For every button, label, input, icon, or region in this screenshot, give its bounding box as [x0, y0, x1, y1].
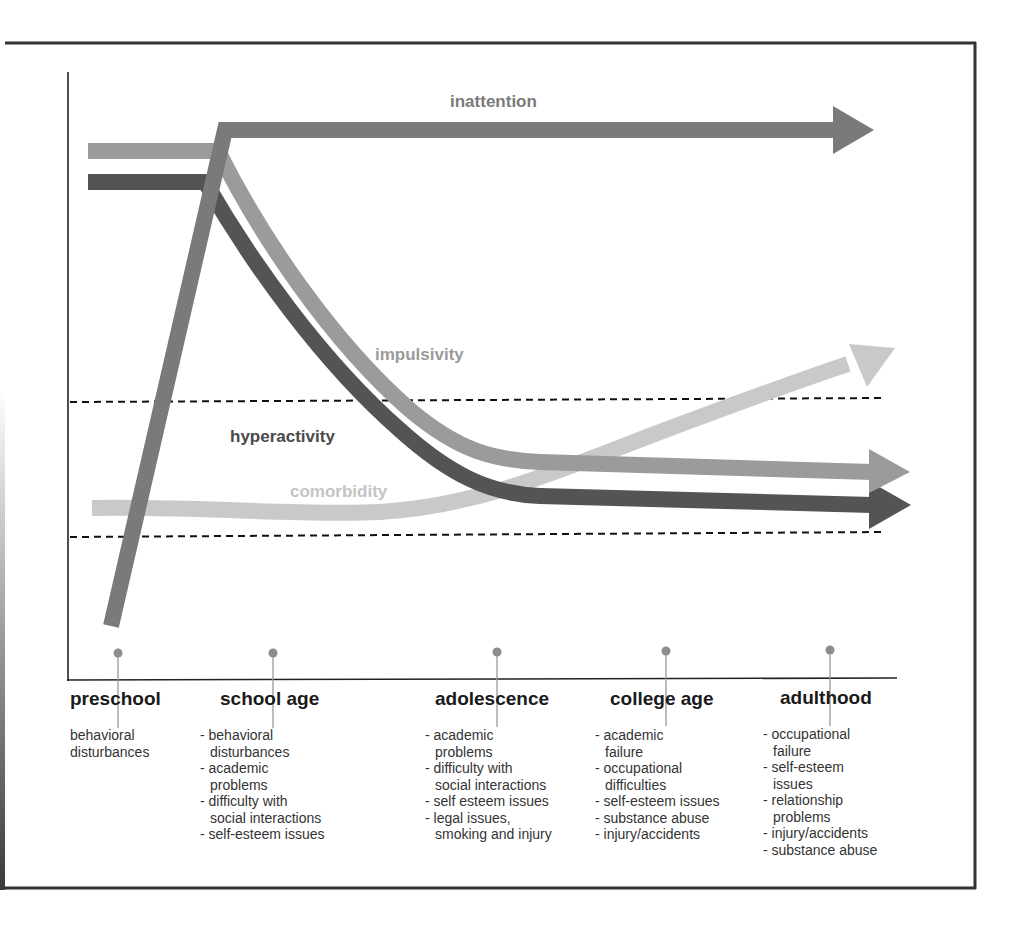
list-item: - self-esteem issues: [595, 793, 719, 810]
lower-dashed-threshold: [70, 532, 885, 537]
stage-issues-list: - academic failure - occupational diffic…: [595, 727, 719, 843]
list-item: - substance abuse: [763, 842, 877, 859]
x-axis: [67, 678, 897, 680]
list-item: - self-esteem issues: [200, 826, 324, 843]
stage-issues-list: behavioral disturbances: [70, 727, 161, 760]
stage-adulthood: adulthood - occupational failure - self-…: [763, 687, 877, 858]
inattention-trend: [111, 106, 874, 626]
list-item: - difficulty with social interactions: [425, 760, 552, 793]
stage-college-age: college age - academic failure - occupat…: [595, 688, 719, 843]
stage-preschool: preschool behavioral disturbances: [70, 688, 161, 760]
stage-issues-list: - occupational failure - self-esteem iss…: [763, 726, 877, 858]
list-item: - occupational difficulties: [595, 760, 719, 793]
diagram-canvas: inattention impulsivity hyperactivity co…: [0, 0, 1012, 932]
stage-title: adulthood: [780, 687, 877, 709]
list-item: - self esteem issues: [425, 793, 552, 810]
stage-issues-list: - academic problems - difficulty with so…: [425, 727, 552, 843]
list-item: - legal issues, smoking and injury: [425, 810, 552, 843]
impulsivity-arrowhead: [869, 449, 910, 493]
stage-school-age: school age - behavioral disturbances - a…: [200, 688, 324, 843]
inattention-label: inattention: [450, 92, 537, 112]
list-item: - academic failure: [595, 727, 719, 760]
stage-title: college age: [610, 688, 719, 710]
impulsivity-label: impulsivity: [375, 345, 464, 365]
list-item: - injury/accidents: [595, 826, 719, 843]
list-item: - academic problems: [425, 727, 552, 760]
hyperactivity-label: hyperactivity: [230, 427, 335, 447]
list-item: - occupational failure: [763, 726, 877, 759]
list-item: - relationship problems: [763, 792, 877, 825]
stage-title: adolescence: [435, 688, 552, 710]
comorbidity-arrowhead: [849, 344, 895, 387]
stage-issues-list: - behavioral disturbances - academic pro…: [200, 727, 324, 843]
comorbidity-label: comorbidity: [290, 482, 387, 502]
left-edge-shadow: [0, 390, 5, 890]
list-item: - difficulty with social interactions: [200, 793, 324, 826]
stage-adolescence: adolescence - academic problems - diffic…: [425, 688, 552, 843]
stage-title: preschool: [70, 688, 161, 710]
inattention-arrowhead: [833, 106, 874, 154]
axes: [67, 72, 897, 681]
list-item: - substance abuse: [595, 810, 719, 827]
list-item: - injury/accidents: [763, 825, 877, 842]
list-item: - academic problems: [200, 760, 324, 793]
list-item: - behavioral disturbances: [200, 727, 324, 760]
stage-title: school age: [220, 688, 324, 710]
list-item: behavioral disturbances: [70, 727, 161, 760]
list-item: - self-esteem issues: [763, 759, 877, 792]
